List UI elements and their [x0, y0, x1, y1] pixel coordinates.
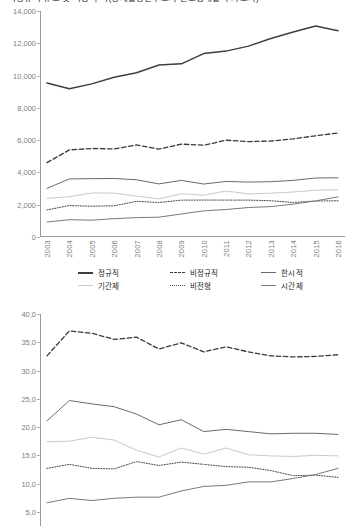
chart-share-series: [40, 314, 345, 526]
x-axis-tick-label: 2009: [177, 240, 186, 258]
legend-label: 비전형: [190, 280, 211, 291]
x-axis-tick-label: 2012: [244, 240, 253, 258]
y-axis-tick: [37, 140, 40, 141]
series-line-atypical: [47, 200, 338, 210]
x-axis-tick-label: 2006: [110, 240, 119, 258]
y-axis-tick-label: 10,0: [21, 479, 36, 488]
legend-item-regular[interactable]: 정규직: [78, 267, 170, 278]
legend-label: 한시적: [281, 267, 302, 278]
y-axis-tick-label: 6,000: [17, 136, 36, 145]
x-axis-tick-label: 2007: [132, 240, 141, 258]
y-axis-tick-label: 4,000: [17, 168, 36, 177]
y-axis-tick-label: 0: [32, 233, 36, 242]
y-axis-tick: [37, 76, 40, 77]
legend-label: 기간제: [98, 280, 119, 291]
series-line-temporary: [47, 401, 338, 435]
y-axis-tick-label: 20,0: [21, 423, 36, 432]
y-axis-tick: [37, 314, 40, 315]
legend-label: 시간제: [281, 280, 302, 291]
series-line-fixedterm: [47, 190, 338, 199]
y-axis-tick: [37, 172, 40, 173]
y-axis-tick: [37, 43, 40, 44]
chart-legend: 정규직비정규직한시적기간제비전형시간제: [0, 266, 353, 292]
y-axis-tick: [37, 427, 40, 428]
figure-title-cropped: 비정규직 규모 및 비중 추이(경제활동인구조사 근로형태별 부가조사): [0, 0, 353, 7]
legend-item-temporary[interactable]: 한시적: [261, 267, 353, 278]
y-axis-tick: [37, 371, 40, 372]
y-axis-tick: [37, 108, 40, 109]
series-line-fixedterm: [47, 437, 338, 457]
legend-row: 정규직비정규직한시적: [0, 266, 353, 279]
x-axis-tick-label: 2016: [334, 240, 343, 258]
series-line-parttime: [47, 468, 338, 502]
legend-swatch-icon: [170, 285, 185, 286]
chart-share-plot: 5,010,015,020,025,030,035,040,0: [40, 314, 345, 526]
legend-swatch-icon: [78, 272, 93, 274]
y-axis-tick: [37, 399, 40, 400]
series-line-parttime: [47, 197, 338, 222]
y-axis-tick-label: 5,0: [26, 507, 36, 516]
y-axis-tick: [37, 205, 40, 206]
y-axis-tick-label: 15,0: [21, 451, 36, 460]
y-axis-tick-label: 30,0: [21, 366, 36, 375]
legend-swatch-icon: [261, 272, 276, 273]
legend-label: 정규직: [98, 267, 119, 278]
y-axis-tick: [37, 512, 40, 513]
legend-row: 기간제비전형시간제: [0, 279, 353, 292]
x-axis-tick-label: 2003: [43, 240, 52, 258]
x-axis-tick-label: 2015: [311, 240, 320, 258]
x-axis-tick-label: 2008: [154, 240, 163, 258]
x-axis-tick-label: 2005: [87, 240, 96, 258]
series-line-irregular: [47, 133, 338, 163]
y-axis-tick-label: 12,000: [13, 39, 36, 48]
chart-counts-series: [40, 11, 345, 237]
y-axis-tick: [37, 455, 40, 456]
series-line-atypical: [47, 462, 338, 478]
y-axis-tick-label: 35,0: [21, 338, 36, 347]
y-axis-tick-label: 40,0: [21, 310, 36, 319]
y-axis-tick-label: 2,000: [17, 200, 36, 209]
legend-item-parttime[interactable]: 시간제: [261, 280, 353, 291]
y-axis-tick-label: 8,000: [17, 103, 36, 112]
legend-swatch-icon: [170, 272, 185, 273]
chart-share: 5,010,015,020,025,030,035,040,0: [0, 312, 353, 526]
legend-item-atypical[interactable]: 비전형: [170, 280, 262, 291]
legend-swatch-icon: [78, 285, 93, 286]
chart-counts-plot: 02,0004,0006,0008,00010,00012,00014,0002…: [40, 11, 345, 237]
figure-title-text: 비정규직 규모 및 비중 추이(경제활동인구조사 근로형태별 부가조사): [8, 0, 259, 3]
series-line-irregular: [47, 331, 338, 357]
chart-counts: 02,0004,0006,0008,00010,00012,00014,0002…: [0, 7, 353, 307]
x-axis-tick-label: 2013: [266, 240, 275, 258]
legend-swatch-icon: [261, 285, 276, 286]
series-line-regular: [47, 26, 338, 89]
x-axis-tick-label: 2014: [289, 240, 298, 258]
figure-page: 비정규직 규모 및 비중 추이(경제활동인구조사 근로형태별 부가조사) 02,…: [0, 0, 353, 526]
y-axis-tick-label: 14,000: [13, 7, 36, 16]
legend-item-irregular[interactable]: 비정규직: [170, 267, 262, 278]
y-axis-tick: [37, 11, 40, 12]
y-axis-tick: [37, 237, 40, 238]
legend-item-fixedterm[interactable]: 기간제: [78, 280, 170, 291]
x-axis-tick-label: 2010: [199, 240, 208, 258]
y-axis-tick: [37, 484, 40, 485]
series-line-temporary: [47, 178, 338, 189]
y-axis-tick-label: 10,000: [13, 71, 36, 80]
y-axis-tick-label: 25,0: [21, 394, 36, 403]
legend-label: 비정규직: [190, 267, 218, 278]
x-axis-tick-label: 2004: [65, 240, 74, 258]
x-axis-tick-label: 2011: [222, 240, 231, 257]
y-axis-tick: [37, 342, 40, 343]
